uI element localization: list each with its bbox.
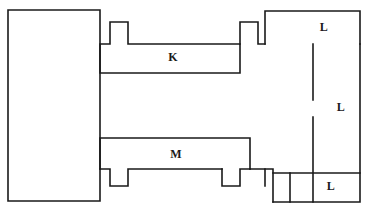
floor-plan-figure: K L L M L — [0, 0, 368, 214]
top-right-l-room-wall — [265, 11, 360, 44]
room-label-l-top: L — [320, 20, 328, 35]
room-label-l-middle: L — [337, 100, 345, 115]
room-m-right-connector-wall — [250, 169, 265, 186]
room-label-k: K — [168, 50, 178, 65]
room-k-wall — [100, 22, 240, 73]
left-rectangle-wall — [8, 10, 100, 201]
lower-right-stub-wall — [265, 169, 273, 202]
room-label-m: M — [170, 147, 182, 162]
room-k-right-notch-wall — [240, 22, 265, 44]
room-label-l-bottom: L — [327, 179, 335, 194]
room-m-right-notch-wall — [222, 169, 250, 186]
right-outer-wall — [273, 44, 360, 202]
room-m-left-notch-wall — [100, 169, 222, 186]
floor-plan-svg — [0, 0, 368, 214]
